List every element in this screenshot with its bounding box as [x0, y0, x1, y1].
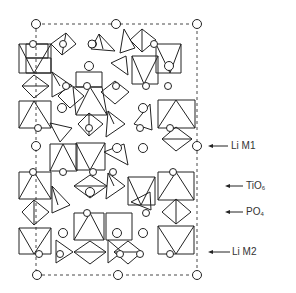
li-m1-text: Li M1 [231, 140, 255, 151]
label-arrows [208, 144, 243, 254]
li-m1-label: Li M1 [231, 141, 255, 151]
li-m2-text: Li M2 [232, 246, 256, 257]
po4-main-text: PO [246, 206, 260, 217]
po4-subscript: 4 [260, 211, 263, 217]
li-m2-label: Li M2 [232, 247, 256, 257]
po4-label: PO4 [246, 207, 264, 217]
crystal-structure-diagram: Li M1 TiO6 PO4 Li M2 [0, 0, 296, 293]
tio6-label: TiO6 [246, 181, 265, 191]
tio6-subscript: 6 [262, 185, 265, 191]
tio6-octahedra [19, 44, 195, 254]
tio6-main-text: TiO [246, 180, 262, 191]
